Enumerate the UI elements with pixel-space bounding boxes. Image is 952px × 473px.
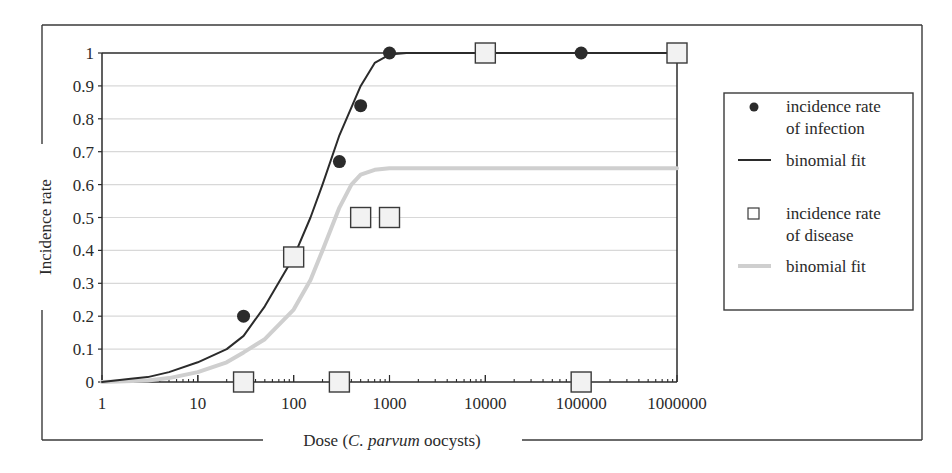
legend-label: incidence rate [786,97,881,116]
infection-data-point [333,155,346,168]
infection-data-point [354,99,367,112]
y-tick-label: 0.2 [73,307,94,326]
disease-data-point [329,372,349,392]
chart-svg: 00.10.20.30.40.50.60.70.80.91 1101001000… [0,0,952,473]
y-tick-label: 0.8 [73,110,94,129]
x-axis-title-part: oocysts) [420,431,481,450]
legend-square-marker-icon [748,208,759,219]
infection-data-point [575,47,588,60]
disease-data-point [571,372,591,392]
disease-data-point [667,43,687,63]
x-tick-label: 1 [98,394,107,413]
legend-label: of disease [786,226,854,245]
disease-data-point [234,372,254,392]
y-tick-label: 1 [86,44,95,63]
chart: 00.10.20.30.40.50.60.70.80.91 1101001000… [0,0,952,473]
x-tick-label: 1000 [373,394,407,413]
infection-data-point [383,47,396,60]
y-tick-label: 0.3 [73,274,94,293]
x-tick-labels: 1101001000100001000001000000 [98,394,707,413]
legend-label: incidence rate [786,204,881,223]
legend: incidence rateof infectionbinomial fitin… [724,93,913,310]
y-tick-label: 0.9 [73,77,94,96]
y-tick-labels: 00.10.20.30.40.50.60.70.80.91 [73,44,95,392]
legend-label: of infection [786,119,865,138]
infection-data-point [237,310,250,323]
y-tick-label: 0.1 [73,340,94,359]
x-tick-label: 10000 [464,394,507,413]
disease-data-point [380,208,400,228]
y-axis-title: Incidence rate [36,179,55,275]
legend-circle-marker-icon [750,103,759,112]
x-axis-title-part: C. parvum [348,431,420,450]
y-tick-label: 0.5 [73,209,94,228]
x-tick-label: 100000 [556,394,607,413]
disease-data-point [284,247,304,267]
y-tick-label: 0.6 [73,176,94,195]
fit-curve [102,168,677,382]
x-tick-label: 10 [189,394,206,413]
x-tick-label: 1000000 [647,394,707,413]
y-tick-label: 0 [86,373,95,392]
legend-label: binomial fit [786,151,866,170]
legend-label: binomial fit [786,257,866,276]
x-tick-label: 100 [281,394,307,413]
x-axis-title: Dose (C. parvum oocysts) [303,431,481,450]
y-tick-label: 0.4 [73,241,95,260]
disease-data-point [475,43,495,63]
y-tick-label: 0.7 [73,143,95,162]
x-axis-title-part: Dose ( [303,431,348,450]
disease-data-point [351,208,371,228]
